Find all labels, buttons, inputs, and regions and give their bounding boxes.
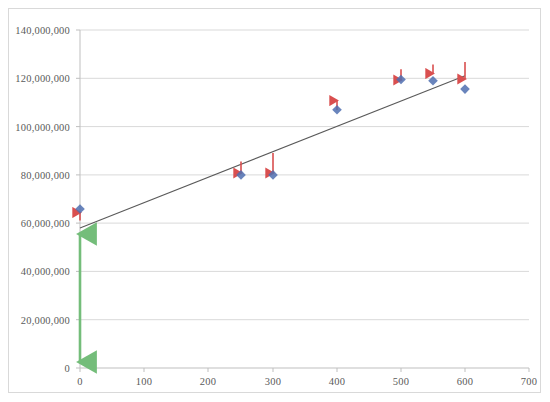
axis-lines bbox=[80, 30, 529, 368]
y-tick-label-0: 0 bbox=[8, 363, 70, 374]
x-tick-label-0: 0 bbox=[77, 376, 82, 387]
x-tick-label-300: 300 bbox=[265, 376, 281, 387]
regression-line bbox=[80, 76, 465, 228]
x-tick-label-400: 400 bbox=[329, 376, 345, 387]
data-point-x550 bbox=[428, 76, 438, 86]
residual-arrows bbox=[80, 62, 465, 221]
x-tick-label-700: 700 bbox=[521, 376, 537, 387]
y-tick-label-60m: 60,000,000 bbox=[8, 218, 70, 229]
y-tick-label-20m: 20,000,000 bbox=[8, 314, 70, 325]
x-tick-label-500: 500 bbox=[393, 376, 409, 387]
data-point-x600 bbox=[460, 84, 470, 94]
data-point-x250 bbox=[236, 170, 246, 180]
x-tick-label-600: 600 bbox=[457, 376, 473, 387]
data-point-x400 bbox=[332, 105, 342, 115]
x-axis-ticks bbox=[80, 368, 529, 372]
y-tick-label-140m: 140,000,000 bbox=[8, 25, 70, 36]
y-tick-label-80m: 80,000,000 bbox=[8, 169, 70, 180]
chart-container: 140,000,000 120,000,000 100,000,000 80,0… bbox=[0, 0, 550, 402]
y-tick-label-100m: 100,000,000 bbox=[8, 121, 70, 132]
plot-area bbox=[0, 0, 550, 402]
gridlines-horizontal bbox=[80, 30, 529, 320]
data-point-x0 bbox=[75, 204, 85, 214]
y-tick-label-120m: 120,000,000 bbox=[8, 73, 70, 84]
data-point-x300 bbox=[268, 170, 278, 180]
x-tick-label-100: 100 bbox=[136, 376, 152, 387]
x-tick-label-200: 200 bbox=[200, 376, 216, 387]
data-point-x500 bbox=[396, 75, 406, 85]
y-tick-label-40m: 40,000,000 bbox=[8, 266, 70, 277]
observed-markers bbox=[75, 75, 470, 214]
